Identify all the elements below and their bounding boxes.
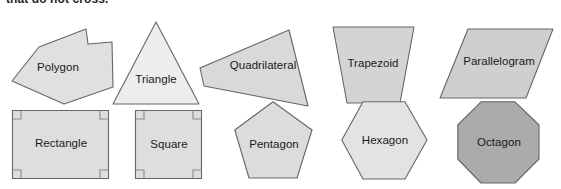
label-triangle: Triangle [120, 74, 192, 86]
caption-clip: that do not cross. [0, 0, 561, 7]
label-quadrilateral: Quadrilateral [221, 60, 305, 72]
shape-trapezoid: Trapezoid [328, 24, 420, 108]
label-pentagon: Pentagon [238, 139, 310, 151]
triangle-path [113, 22, 199, 104]
label-square: Square [135, 139, 203, 151]
label-rectangle: Rectangle [27, 138, 95, 150]
shape-triangle: Triangle [113, 20, 201, 108]
shape-octagon: Octagon [457, 101, 541, 185]
label-octagon: Octagon [463, 137, 535, 149]
figure-caption: that do not cross. [6, 0, 108, 6]
shape-polygon: Polygon [8, 18, 118, 108]
shape-quadrilateral: Quadrilateral [200, 24, 312, 110]
label-hexagon: Hexagon [349, 135, 421, 147]
shape-rectangle: Rectangle [12, 110, 110, 180]
label-trapezoid: Trapezoid [337, 58, 409, 70]
shape-square: Square [135, 110, 203, 180]
shape-parallelogram: Parallelogram [440, 25, 558, 103]
label-polygon: Polygon [22, 62, 94, 74]
label-parallelogram: Parallelogram [459, 56, 539, 68]
shape-hexagon: Hexagon [341, 101, 429, 181]
shapes-figure: that do not cross. Polygon Triangle Quad… [0, 0, 561, 189]
shape-pentagon: Pentagon [234, 101, 314, 181]
